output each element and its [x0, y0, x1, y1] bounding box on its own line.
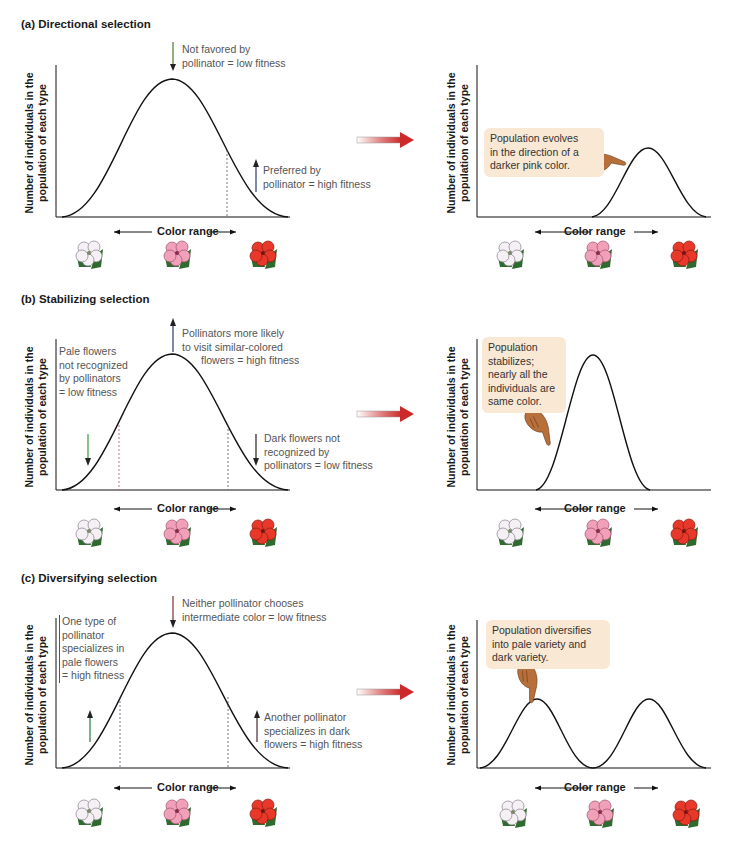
panel-c-before-y-axis-label: Number of individuals in the population … [23, 620, 49, 770]
panel-c-low-fitness-annotation: Neither pollinator chooses intermediate … [182, 597, 326, 624]
panel-b-up-arrow-icon [170, 318, 176, 326]
panel-b-dark-low-fitness-annotation: Dark flowers not recognized by pollinato… [264, 432, 373, 473]
panel-c-after-y-axis-label: Number of individuals in the population … [445, 620, 471, 770]
panel-b-before-x-axis-label: Color range [157, 502, 219, 514]
panel-a-low-fitness-annotation: Not favored by pollinator = low fitness [182, 43, 286, 70]
panel-a-high-fitness-annotation: Preferred by pollinator = high fitness [263, 164, 371, 191]
figure-graphics [0, 0, 734, 848]
panel-c-graphics [56, 596, 711, 828]
panel-c-before-x-axis-label: Color range [157, 781, 219, 793]
panel-c-pale-up-arrow-icon [87, 710, 93, 718]
panel-a-before-curve [62, 79, 288, 217]
panel-a-before-y-axis-label: Number of individuals in the population … [23, 68, 49, 218]
panel-a-title: (a) Directional selection [21, 18, 151, 30]
panel-b-transition-arrow [357, 411, 401, 417]
panel-c-dark-high-fitness-annotation: Another pollinator specializes in dark f… [264, 711, 362, 752]
panel-b-title: (b) Stabilizing selection [21, 293, 149, 305]
panel-a-before-x-axis-label: Color range [157, 225, 219, 237]
panel-b-high-fitness-annotation: Pollinators more likely to visit similar… [182, 327, 299, 368]
panel-a-after-y-axis-label: Number of individuals in the population … [445, 68, 471, 218]
panel-b-callout: Population stabilizes; nearly all the in… [482, 337, 566, 413]
panel-c-after-curve [480, 699, 706, 768]
panel-c-down-arrow-icon [170, 620, 176, 628]
panel-b-after-x-axis-label: Color range [564, 502, 626, 514]
panel-c-dark-up-arrow-icon [254, 710, 260, 718]
panel-c-after-x-axis-label: Color range [564, 781, 626, 793]
panel-c-pale-high-fitness-annotation: One type of pollinator specializes in pa… [59, 615, 124, 683]
panel-c-callout: Population diversifies into pale variety… [486, 620, 610, 669]
panel-a-after-x-axis-label: Color range [564, 225, 626, 237]
panel-a-up-arrow-icon [253, 159, 259, 167]
panel-b-pale-down-arrow-icon [85, 458, 91, 466]
panel-a-before-axes [56, 65, 290, 217]
panel-a-transition-arrow [357, 137, 401, 143]
panel-a-callout: Population evolves in the direction of a… [484, 128, 604, 177]
panel-c-title: (c) Diversifying selection [21, 572, 157, 584]
panel-b-dark-down-arrow-icon [253, 458, 259, 466]
panel-b-before-y-axis-label: Number of individuals in the population … [23, 342, 49, 492]
panel-b-pale-low-fitness-annotation: Pale flowers not recognized by pollinato… [59, 345, 128, 399]
panel-b-after-y-axis-label: Number of individuals in the population … [445, 342, 471, 492]
panel-a-down-arrow-icon [170, 64, 176, 71]
panel-c-transition-arrow [357, 689, 401, 695]
